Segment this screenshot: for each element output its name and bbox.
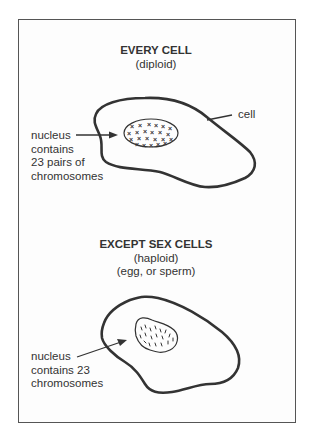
svg-text:×: × (149, 142, 153, 149)
label-line: chromosomes (31, 377, 103, 391)
arrowhead-icon (117, 339, 127, 346)
label-line: nucleus (31, 350, 103, 364)
svg-text:×: × (158, 129, 162, 136)
diploid-nucleus-label: nucleus contains 23 pairs of chromosomes (31, 129, 103, 183)
label-line: contains (31, 143, 103, 157)
svg-text:×: × (169, 136, 173, 143)
haploid-chromosomes (140, 325, 173, 346)
label-line: nucleus (31, 129, 103, 143)
svg-text:×: × (154, 122, 158, 129)
diploid-cell-outline (95, 98, 255, 187)
svg-text:×: × (145, 135, 149, 142)
svg-text:×: × (135, 141, 139, 148)
haploid-nucleus-label: nucleus contains 23 chromosomes (31, 350, 103, 391)
haploid-cell-outline (102, 297, 240, 393)
cell-label: cell (238, 108, 255, 122)
diploid-chromosomes: ××× ××× ××× ××× ××× ××× ××× ×× (127, 121, 173, 149)
cell-pointer-line (207, 115, 232, 120)
svg-text:×: × (147, 121, 151, 128)
svg-text:×: × (129, 136, 133, 143)
arrowhead-icon (109, 132, 118, 139)
label-line: chromosomes (31, 170, 103, 184)
svg-text:×: × (130, 123, 134, 130)
svg-text:×: × (143, 128, 147, 135)
svg-text:×: × (142, 142, 146, 149)
svg-text:×: × (138, 122, 142, 129)
svg-text:×: × (156, 141, 160, 148)
label-line: contains 23 (31, 364, 103, 378)
label-line: 23 pairs of (31, 156, 103, 170)
svg-text:×: × (163, 140, 167, 147)
svg-text:×: × (150, 129, 154, 136)
